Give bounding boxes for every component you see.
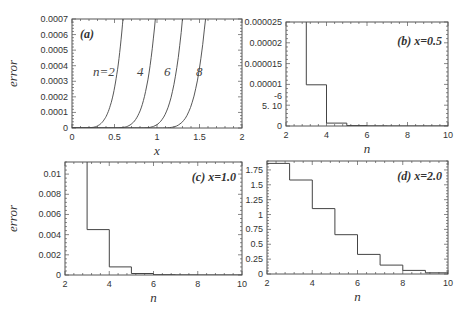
y-tick-label: 0 <box>56 270 61 280</box>
panel-label: (d) x=2.0 <box>397 169 442 183</box>
y-tick-label: 0.0004 <box>40 61 68 71</box>
x-tick-label: 2 <box>283 130 288 140</box>
step-series <box>306 1 448 126</box>
x-tick-label: 6 <box>364 130 369 140</box>
curve-label: 6 <box>164 64 171 79</box>
y-tick-label: 0 <box>277 121 282 131</box>
panel-c: 24681000.0020.0040.0060.0080.01nerror(c)… <box>5 139 247 305</box>
panel-label: (a) <box>80 27 94 41</box>
curve-label: 4 <box>137 64 144 79</box>
y-tick-label: 0.000015 <box>244 59 282 69</box>
y-tick-label: 0.0005 <box>40 45 68 55</box>
x-tick-label: 4 <box>310 278 315 288</box>
x-tick-label: 2 <box>264 278 269 288</box>
y-tick-label: 0.000025 <box>244 17 282 27</box>
x-tick-label: 2 <box>239 132 244 142</box>
x-axis-label: n <box>364 141 371 156</box>
y-tick-label: 0.00001 <box>249 79 282 89</box>
x-tick-label: 6 <box>151 279 156 289</box>
y-tick-label: 0.75 <box>245 224 263 234</box>
panel-a: 00.511.5200.00010.00020.00030.00040.0005… <box>5 14 245 159</box>
step-series <box>87 139 242 275</box>
panel-b: 2468100-65. 100.000010.0000150.000020.00… <box>244 1 453 156</box>
y-tick-label: 0.008 <box>38 189 61 199</box>
y-tick-label: 5. 10 <box>262 101 282 111</box>
y-tick-label: 0.0007 <box>40 14 68 24</box>
x-tick-label: 8 <box>195 279 200 289</box>
y-tick-label: 0 <box>63 123 68 133</box>
x-tick-label: 0 <box>69 132 74 142</box>
x-tick-label: 4 <box>324 130 329 140</box>
curve-label: 8 <box>196 64 203 79</box>
x-tick-label: 10 <box>237 279 247 289</box>
x-axis-label: n <box>354 289 361 304</box>
panel-label: (c) x=1.0 <box>192 170 236 184</box>
x-tick-label: 0.5 <box>108 132 121 142</box>
y-tick-label: 0.5 <box>250 239 263 249</box>
y-tick-label: 0.01 <box>43 169 61 179</box>
y-tick-label: 0.00002 <box>249 38 282 48</box>
y-axis-label: error <box>5 59 20 87</box>
x-axis-label: n <box>150 290 157 305</box>
y-tick-label: 0.006 <box>38 209 61 219</box>
y-tick-label: 0.004 <box>38 230 61 240</box>
y-tick-label: 0.0003 <box>40 76 68 86</box>
panel-label: (b) x=0.5 <box>397 34 442 48</box>
panel-d: 24681000.250.50.7511.251.51.75n(d) x=2.0 <box>245 161 453 304</box>
x-tick-label: 8 <box>400 278 405 288</box>
y-tick-label: 0.0001 <box>40 107 68 117</box>
x-tick-label: 10 <box>443 278 453 288</box>
y-tick-label: 0.25 <box>245 254 263 264</box>
x-tick-label: 6 <box>355 278 360 288</box>
y-tick-label: 1.25 <box>245 195 263 205</box>
y-tick-label: 0 <box>258 269 263 279</box>
x-tick-label: 1 <box>154 132 159 142</box>
curve-label: n=2 <box>93 64 115 79</box>
x-tick-label: 10 <box>443 130 453 140</box>
y-tick-label: 0.0002 <box>40 92 68 102</box>
y-tick-label: 1.75 <box>245 165 263 175</box>
y-tick-label: 0.0006 <box>40 30 68 40</box>
y-tick-label: 1.5 <box>250 180 263 190</box>
x-tick-label: 4 <box>107 279 112 289</box>
figure-canvas: 00.511.5200.00010.00020.00030.00040.0005… <box>0 0 470 317</box>
x-tick-label: 2 <box>62 279 67 289</box>
x-tick-label: 8 <box>405 130 410 140</box>
y-tick-label: 0.002 <box>38 250 61 260</box>
y-tick-label: 1 <box>258 210 263 220</box>
x-axis-label: x <box>153 143 160 158</box>
y-tick-exponent: -6 <box>274 91 282 101</box>
x-tick-label: 1.5 <box>193 132 206 142</box>
y-axis-label: error <box>5 204 20 232</box>
